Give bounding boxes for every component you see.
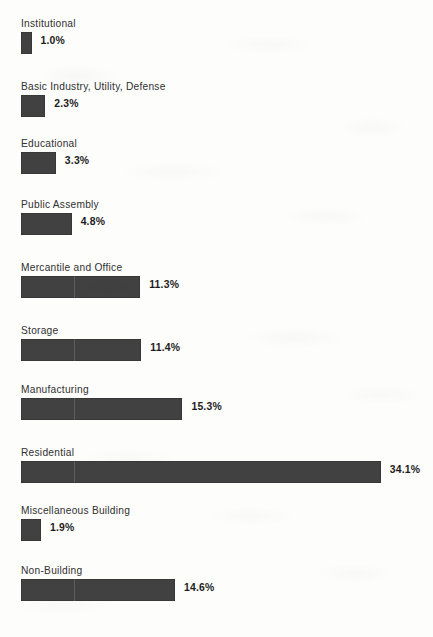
bar-value-label: 1.0%: [41, 35, 65, 47]
bar-value-label: 11.4%: [150, 342, 180, 354]
bar-value-label: 15.3%: [191, 401, 221, 413]
bar-rect: [21, 276, 140, 298]
bar-value-label: 2.3%: [54, 98, 78, 110]
bar-category-label: Miscellaneous Building: [21, 505, 130, 517]
bar-category-label: Residential: [21, 447, 74, 459]
bar-rect: [21, 461, 381, 483]
bar-rect: [21, 95, 45, 117]
bar-value-label: 11.3%: [149, 279, 179, 291]
bar-chart: Institutional1.0%Basic Industry, Utility…: [0, 0, 433, 637]
bar-category-label: Storage: [21, 325, 58, 337]
bar-rect: [21, 152, 56, 174]
bar-category-label: Educational: [21, 138, 77, 150]
bar-rect: [21, 339, 141, 361]
bar-rect: [21, 32, 32, 54]
bar-value-label: 3.3%: [65, 155, 89, 167]
bar-rect: [21, 579, 175, 601]
bar-category-label: Mercantile and Office: [21, 262, 122, 274]
bar-category-label: Manufacturing: [21, 384, 89, 396]
gridline-5-percent: [74, 579, 75, 601]
gridline-5-percent: [74, 276, 75, 298]
bar-value-label: 14.6%: [184, 582, 214, 594]
bar-value-label: 34.1%: [390, 464, 420, 476]
gridline-5-percent: [74, 339, 75, 361]
bar-value-label: 4.8%: [81, 216, 105, 228]
bar-rect: [21, 519, 41, 541]
gridline-5-percent: [74, 461, 75, 483]
bar-value-label: 1.9%: [50, 522, 74, 534]
bar-category-label: Public Assembly: [21, 199, 99, 211]
bar-rect: [21, 398, 182, 420]
bar-category-label: Institutional: [21, 18, 76, 30]
bar-category-label: Non-Building: [21, 565, 82, 577]
gridline-5-percent: [74, 398, 75, 420]
bar-rect: [21, 213, 72, 235]
bar-category-label: Basic Industry, Utility, Defense: [21, 81, 166, 93]
